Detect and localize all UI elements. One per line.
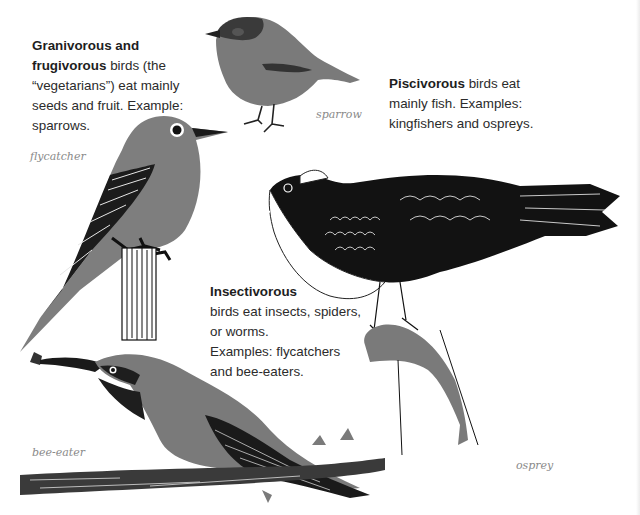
piscivorous-heading: Piscivorous	[389, 76, 465, 91]
sparrow-caption: sparrow	[316, 108, 362, 121]
piscivorous-text: kingfishers and ospreys.	[389, 116, 533, 131]
insectivorous-text: and bee-eaters.	[210, 364, 304, 379]
insectivorous-text: Examples: flycatchers	[210, 344, 340, 359]
granivorous-heading: Granivorous and	[32, 38, 139, 53]
granivorous-text: sparrows.	[32, 118, 90, 133]
insectivorous-description: Insectivorous birds eat insects, spiders…	[210, 282, 380, 382]
insectivorous-text: birds eat insects, spiders,	[210, 304, 361, 319]
granivorous-text: “vegetarians”) eat mainly	[32, 78, 179, 93]
granivorous-description: Granivorous and frugivorous birds (the “…	[32, 36, 212, 136]
piscivorous-text: birds eat	[465, 76, 520, 91]
frugivorous-heading: frugivorous	[32, 58, 106, 73]
osprey-caption: osprey	[516, 459, 553, 472]
flycatcher-caption: flycatcher	[30, 150, 86, 163]
granivorous-text: seeds and fruit. Example:	[32, 98, 183, 113]
piscivorous-text: mainly fish. Examples:	[389, 96, 522, 111]
page-edge-shadow	[636, 0, 640, 515]
insectivorous-heading: Insectivorous	[210, 284, 297, 299]
bee-eater-caption: bee-eater	[32, 446, 85, 459]
granivorous-text: birds (the	[106, 58, 166, 73]
piscivorous-description: Piscivorous birds eat mainly fish. Examp…	[389, 74, 609, 134]
insectivorous-text: or worms.	[210, 324, 269, 339]
